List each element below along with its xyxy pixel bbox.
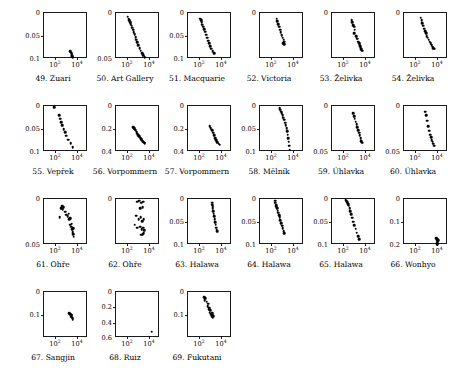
x-tick-label: 104 — [359, 62, 370, 69]
x-tick-mark — [415, 57, 416, 60]
y-tick-label: 0.05 — [97, 56, 112, 63]
y-tick-label: 0 — [396, 103, 400, 110]
y-tick-label: 0 — [180, 10, 184, 17]
x-tick-label: 102 — [265, 248, 276, 255]
data-point — [72, 227, 75, 230]
panel-60-úhlavka: 00.0510210460. Úhlavka — [377, 101, 449, 194]
x-tick-label: 102 — [409, 62, 420, 69]
x-tick-label: 102 — [121, 341, 132, 348]
y-tick-label: 0.1 — [318, 242, 329, 249]
x-tick-mark — [199, 150, 200, 153]
panel-68-ruiz: 00.20.40.610210468. Ruiz — [89, 287, 161, 377]
y-tick-label: 0.1 — [174, 56, 185, 63]
panel-62-ohře: 010210462. Ohře — [89, 194, 161, 287]
y-tick-label: 0 — [36, 196, 40, 203]
y-tick-label: 0.1 — [174, 312, 185, 319]
x-tick-mark — [271, 243, 272, 246]
x-tick-label: 104 — [215, 341, 226, 348]
data-point — [354, 28, 357, 31]
y-tick-label: 0.05 — [25, 126, 40, 133]
x-tick-mark — [199, 336, 200, 339]
x-tick-mark — [77, 336, 78, 339]
panel-caption: 63. Halawa — [161, 260, 233, 269]
panel-50-art-gallery: 00.0510210450. Art Gallery — [89, 8, 161, 101]
x-tick-label: 102 — [337, 248, 348, 255]
panel-69-fukutani: 00.110210469. Fukutani — [161, 287, 233, 377]
y-tick-mark — [257, 222, 260, 223]
data-point — [433, 48, 436, 51]
x-tick-mark — [55, 57, 56, 60]
y-tick-label: 0.1 — [30, 56, 41, 63]
data-point — [287, 137, 290, 140]
data-point — [59, 118, 62, 121]
panel-56-vorpommern: 00.20.410210456. Vorpommern — [89, 101, 161, 194]
panel-61-ohře: 00.0510210461. Ohře — [17, 194, 89, 287]
data-point — [361, 49, 364, 52]
data-point — [287, 133, 290, 136]
y-tick-label: 0.1 — [30, 149, 41, 156]
x-tick-label: 102 — [193, 248, 204, 255]
x-tick-label: 104 — [143, 62, 154, 69]
x-tick-label: 102 — [121, 155, 132, 162]
panel-caption: 57. Vorpommern — [161, 167, 233, 176]
y-tick-label: 0.05 — [385, 149, 400, 156]
x-tick-mark — [437, 57, 438, 60]
small-multiples-figure: 00.050.110210449. Zuari00.0510210450. Ar… — [0, 0, 463, 377]
data-point — [205, 33, 208, 36]
plot-area: 00.1102104 — [43, 291, 87, 337]
panel-caption: 59. Úhlavka — [305, 167, 377, 176]
x-tick-label: 102 — [193, 155, 204, 162]
y-tick-label: 0.05 — [169, 33, 184, 40]
plot-area: 00.05102104 — [43, 198, 87, 244]
x-tick-mark — [293, 243, 294, 246]
plot-area: 00.20.4102104 — [187, 105, 231, 151]
panel-64-halawa: 00.050.110210464. Halawa — [233, 194, 305, 287]
data-point — [58, 216, 61, 219]
x-tick-mark — [343, 150, 344, 153]
x-tick-label: 104 — [215, 62, 226, 69]
y-tick-label: 0.2 — [174, 126, 185, 133]
panel-caption: 61. Ohře — [17, 260, 89, 269]
data-point — [58, 114, 61, 117]
data-point — [62, 128, 65, 131]
y-tick-label: 0 — [180, 196, 184, 203]
plot-area: 0102104 — [259, 12, 303, 58]
y-tick-mark — [113, 307, 116, 308]
x-tick-mark — [149, 243, 150, 246]
panel-caption: 58. Mělník — [233, 167, 305, 176]
panel-caption: 50. Art Gallery — [89, 74, 161, 83]
data-point — [142, 200, 145, 203]
data-point — [72, 56, 75, 59]
x-tick-label: 102 — [409, 155, 420, 162]
x-tick-label: 102 — [49, 248, 60, 255]
data-point — [285, 127, 288, 130]
data-point — [428, 130, 431, 133]
plot-area: 00.20.4102104 — [115, 105, 159, 151]
panel-caption: 55. Vepřek — [17, 167, 89, 176]
plot-area: 0102104 — [115, 198, 159, 244]
data-point — [433, 144, 436, 147]
x-tick-label: 104 — [359, 155, 370, 162]
plot-area: 00.050.1102104 — [43, 105, 87, 151]
y-tick-label: 0 — [252, 196, 256, 203]
plot-area: 00.050.1102104 — [187, 12, 231, 58]
x-tick-mark — [127, 336, 128, 339]
data-point — [142, 218, 145, 221]
x-tick-mark — [221, 57, 222, 60]
y-tick-label: 0 — [36, 10, 40, 17]
data-point — [427, 125, 430, 128]
panel-caption: 53. Želivka — [305, 74, 377, 83]
y-tick-label: 0.05 — [241, 126, 256, 133]
data-point — [351, 217, 354, 220]
x-tick-label: 104 — [143, 248, 154, 255]
x-tick-label: 104 — [71, 155, 82, 162]
x-tick-label: 104 — [215, 155, 226, 162]
x-tick-label: 104 — [431, 155, 442, 162]
panel-51-macquarie: 00.050.110210451. Macquarie — [161, 8, 233, 101]
data-point — [213, 52, 216, 55]
y-tick-label: 0 — [252, 10, 256, 17]
data-point — [141, 206, 144, 209]
plot-area: 0102104 — [403, 12, 447, 58]
data-point — [352, 220, 355, 223]
y-tick-label: 0 — [36, 103, 40, 110]
